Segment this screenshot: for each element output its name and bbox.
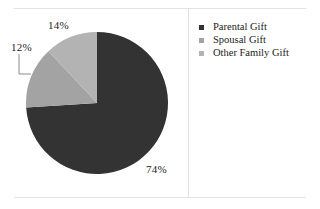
legend-swatch-icon: [199, 25, 204, 30]
slice-label-spousal: 14%: [48, 19, 69, 31]
legend-item-other-family-gift[interactable]: Other Family Gift: [199, 48, 314, 58]
legend: Parental Gift Spousal Gift Other Family …: [199, 22, 314, 61]
plot-area: 14% 12% 74%: [0, 0, 188, 209]
legend-swatch-icon: [199, 38, 204, 43]
slice-label-other-family: 12%: [11, 41, 32, 53]
legend-item-label: Parental Gift: [213, 22, 267, 32]
legend-item-parental-gift[interactable]: Parental Gift: [199, 22, 314, 32]
slice-label-parental: 74%: [146, 163, 167, 175]
legend-item-label: Other Family Gift: [213, 48, 289, 58]
pie-chart-figure: 14% 12% 74% Parental Gift Spousal Gift O…: [0, 0, 320, 209]
legend-item-label: Spousal Gift: [213, 35, 266, 45]
legend-separator-rule: [188, 9, 189, 197]
leader-line-other-family: [18, 54, 34, 76]
legend-item-spousal-gift[interactable]: Spousal Gift: [199, 35, 314, 45]
pie-svg: [26, 32, 168, 174]
legend-swatch-icon: [199, 51, 204, 56]
